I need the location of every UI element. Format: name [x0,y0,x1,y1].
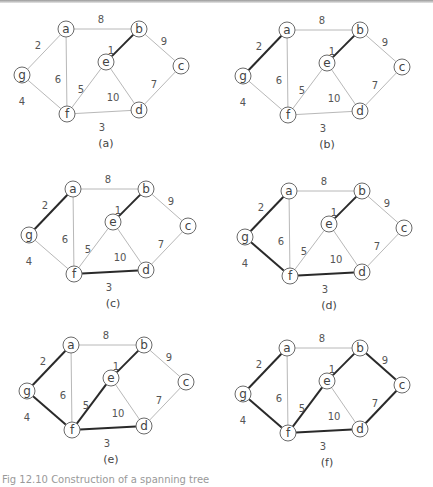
edge-weight-label: 3 [104,438,110,449]
edge-weight-label: 3 [322,284,328,295]
node-b: b [131,21,147,37]
panel-caption: (e) [103,453,118,466]
edge-cd [366,73,397,105]
node-b: b [138,181,154,197]
edge-weight-label: 3 [106,282,112,293]
edge-ef [293,387,322,426]
edge-be [117,351,139,373]
edge-weight-label: 8 [105,174,111,185]
node-g: g [19,383,35,399]
node-f: f [280,425,296,441]
edge-weight-label: 9 [168,196,174,207]
edge-weight-label: 10 [328,93,341,104]
edge-weight-label: 4 [240,97,246,108]
node-e: e [103,370,119,386]
edge-weight-label: 9 [382,355,388,366]
svg-text:b: b [135,22,143,36]
edge-fd [75,110,131,113]
node-f: f [66,266,82,282]
edge-weight-label: 7 [372,398,378,409]
edge-weight-label: 5 [301,246,307,257]
svg-text:b: b [358,184,366,198]
svg-text:e: e [102,55,109,69]
edge-be [335,197,357,219]
figure-caption: Fig 12.10 Construction of a spanning tre… [2,474,209,485]
edge-weight-label: 9 [382,37,388,48]
panel-e: 82619510743abcegfd(e) [19,330,194,466]
panel-caption: (c) [106,297,121,310]
edge-fd [296,429,352,432]
edge-weight-label: 4 [242,258,248,269]
node-e: e [321,216,337,232]
edge-weight-label: 3 [320,441,326,452]
svg-text:d: d [356,104,364,118]
node-g: g [21,227,37,243]
svg-text:b: b [140,338,148,352]
edge-fd [82,270,138,273]
svg-text:d: d [142,263,150,277]
svg-text:a: a [69,182,76,196]
edge-af [66,37,67,106]
edge-be [119,195,141,217]
node-c: c [180,218,196,234]
edge-af [71,353,72,422]
node-a: a [65,181,81,197]
svg-text:a: a [62,22,69,36]
svg-text:c: c [183,375,190,389]
edge-ag [251,197,284,231]
edge-be [112,35,134,57]
svg-text:e: e [325,217,332,231]
panel-d: 82619510743abcegfd(d) [237,176,412,312]
panel-caption: (f) [321,456,333,469]
svg-text:b: b [356,23,364,37]
spanning-tree-figure: 82619510743abcegfd(a)82619510743abcegfd(… [0,0,433,487]
edge-weight-label: 8 [319,333,325,344]
svg-text:g: g [25,228,33,242]
edge-af [289,199,290,268]
edge-weight-label: 6 [276,393,282,404]
edge-weight-label: 9 [161,36,167,47]
node-d: d [138,262,154,278]
edge-fd [296,111,352,114]
edge-weight-label: 2 [256,41,262,52]
node-c: c [394,59,410,75]
node-g: g [237,229,253,245]
edge-ag [35,195,68,229]
edge-be [333,36,355,58]
edge-weight-label: 7 [158,239,164,250]
edge-weight-label: 2 [40,356,46,367]
node-d: d [136,418,152,434]
svg-text:b: b [142,182,150,196]
edge-weight-label: 10 [328,411,341,422]
edge-weight-label: 4 [26,256,32,267]
edge-weight-label: 6 [60,390,66,401]
edge-weight-label: 7 [156,395,162,406]
edge-weight-label: 5 [299,403,305,414]
edge-ef [72,68,101,107]
svg-text:d: d [135,103,143,117]
edge-ef [295,230,324,269]
edge-af [287,356,288,425]
edge-af [287,38,288,107]
node-d: d [352,421,368,437]
node-d: d [354,264,370,280]
edge-weight-label: 2 [258,202,264,213]
edge-weight-label: 7 [151,79,157,90]
svg-text:c: c [178,59,185,73]
svg-text:e: e [109,215,116,229]
panel-b: 82619510743abcegfd(b) [235,15,410,151]
edge-weight-label: 9 [166,352,172,363]
edge-ef [77,384,106,423]
svg-text:a: a [67,338,74,352]
edge-weight-label: 4 [24,412,30,423]
node-a: a [279,22,295,38]
edge-weight-label: 5 [85,244,91,255]
node-a: a [279,340,295,356]
node-e: e [98,54,114,70]
edge-weight-label: 6 [278,236,284,247]
node-b: b [352,340,368,356]
edge-weight-label: 6 [55,74,61,85]
edge-weight-label: 2 [35,40,41,51]
svg-text:g: g [18,68,26,82]
edge-ef [79,228,108,267]
